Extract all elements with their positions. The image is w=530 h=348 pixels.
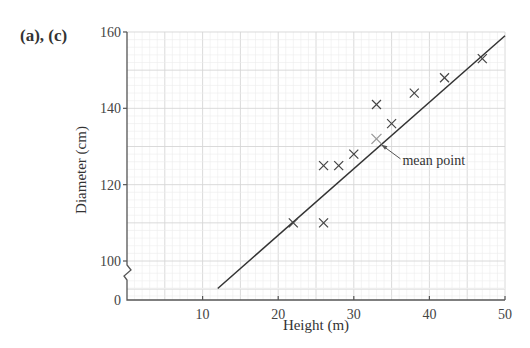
svg-text:100: 100 bbox=[100, 254, 121, 269]
svg-text:40: 40 bbox=[422, 307, 436, 322]
svg-text:mean point: mean point bbox=[402, 153, 465, 168]
mean-point-annotation: mean point bbox=[381, 145, 465, 168]
scatter-chart: 01001201401601020304050 Height (m) Diame… bbox=[0, 0, 530, 348]
svg-text:140: 140 bbox=[100, 101, 121, 116]
svg-text:0: 0 bbox=[114, 293, 121, 308]
y-axis-label: Diameter (cm) bbox=[73, 126, 90, 214]
x-axis-label: Height (m) bbox=[283, 317, 349, 334]
svg-text:50: 50 bbox=[498, 307, 512, 322]
tick-labels: 01001201401601020304050 bbox=[100, 25, 512, 322]
svg-text:160: 160 bbox=[100, 25, 121, 40]
svg-text:10: 10 bbox=[196, 307, 210, 322]
svg-text:120: 120 bbox=[100, 178, 121, 193]
